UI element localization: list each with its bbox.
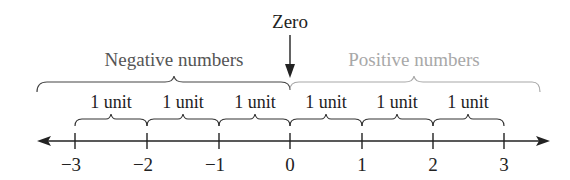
- unit-label: 1 unit: [162, 92, 204, 112]
- unit-brace: [147, 114, 219, 126]
- negative-brace: [37, 76, 290, 92]
- unit-label: 1 unit: [90, 92, 132, 112]
- positive-numbers-label: Positive numbers: [348, 49, 479, 70]
- tick-label: −3: [61, 154, 81, 175]
- tick-label: −2: [133, 154, 153, 175]
- tick-label: 2: [428, 154, 438, 175]
- tick-label: 3: [499, 154, 509, 175]
- negative-numbers-label: Negative numbers: [105, 49, 244, 70]
- zero-arrow-icon: [285, 64, 295, 78]
- number-line-svg: Zero Negative numbers Positive numbers 1…: [0, 0, 570, 180]
- unit-brace: [433, 114, 504, 126]
- unit-brace: [290, 114, 362, 126]
- tick-label: −1: [205, 154, 225, 175]
- unit-brace: [362, 114, 433, 126]
- unit-label: 1 unit: [376, 92, 418, 112]
- zero-label: Zero: [272, 11, 308, 32]
- number-line-diagram: Zero Negative numbers Positive numbers 1…: [0, 0, 570, 180]
- tick-label: 1: [357, 154, 367, 175]
- unit-brace: [75, 114, 147, 126]
- unit-label: 1 unit: [447, 92, 489, 112]
- unit-brace: [219, 114, 290, 126]
- positive-brace: [290, 76, 540, 92]
- unit-label: 1 unit: [234, 92, 276, 112]
- unit-label: 1 unit: [305, 92, 347, 112]
- tick-label: 0: [285, 154, 295, 175]
